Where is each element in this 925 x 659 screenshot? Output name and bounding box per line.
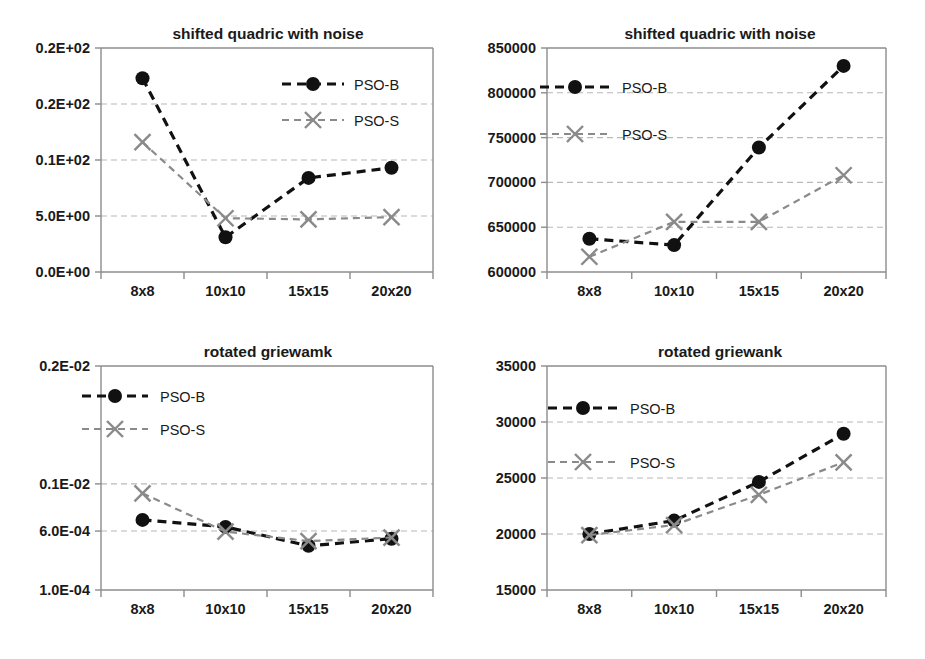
data-point-marker-pso-b bbox=[136, 513, 150, 527]
y-axis-tick-label: 0.1E+02 bbox=[36, 152, 90, 168]
data-point-marker-pso-b bbox=[219, 230, 233, 244]
x-axis-category-label: 15x15 bbox=[739, 601, 779, 617]
x-axis-category-label: 15x15 bbox=[288, 601, 328, 617]
y-axis-tick-label: 0.0E+00 bbox=[36, 264, 90, 280]
chart-title: rotated griewank bbox=[658, 343, 782, 360]
y-axis-tick-label: 800000 bbox=[488, 85, 536, 101]
x-axis-category-label: 8x8 bbox=[577, 601, 601, 617]
legend-label-pso-b: PSO-B bbox=[630, 401, 675, 417]
y-axis-tick-label: 600000 bbox=[488, 264, 536, 280]
y-axis-tick-label: 0.2E+02 bbox=[36, 40, 90, 56]
chart-panel-bottom-left: rotated griewamk0.2E-020.1E-026.0E-041.0… bbox=[0, 330, 462, 659]
chart-title: rotated griewamk bbox=[204, 343, 333, 360]
series-line-pso-s bbox=[589, 175, 843, 257]
legend-marker-pso-b bbox=[108, 389, 122, 403]
legend-label-pso-b: PSO-B bbox=[354, 77, 399, 93]
y-axis-tick-label: 650000 bbox=[488, 219, 536, 235]
series-line-pso-s bbox=[589, 462, 843, 535]
chart-panel-top-left: shifted quadric with noise0.2E+020.2E+02… bbox=[0, 0, 462, 329]
x-axis-category-label: 10x10 bbox=[205, 601, 245, 617]
legend-label-pso-s: PSO-S bbox=[354, 113, 399, 129]
x-axis-category-label: 20x20 bbox=[823, 283, 863, 299]
chart-title: shifted quadric with noise bbox=[172, 25, 364, 42]
y-axis-tick-label: 1.0E-04 bbox=[39, 582, 90, 598]
legend-label-pso-s: PSO-S bbox=[160, 422, 205, 438]
x-axis-category-label: 15x15 bbox=[739, 283, 779, 299]
data-point-marker-pso-b bbox=[837, 59, 851, 73]
figure-canvas: shifted quadric with noise0.2E+020.2E+02… bbox=[0, 0, 925, 659]
x-axis-category-label: 10x10 bbox=[654, 283, 694, 299]
x-axis-category-label: 8x8 bbox=[130, 283, 154, 299]
x-axis-category-label: 10x10 bbox=[654, 601, 694, 617]
series-line-pso-b bbox=[143, 78, 392, 237]
chart-svg-bottom-right: rotated griewank350003000025000200001500… bbox=[462, 330, 924, 659]
series-line-pso-s bbox=[143, 493, 392, 541]
series-line-pso-b bbox=[589, 434, 843, 534]
chart-title: shifted quadric with noise bbox=[624, 25, 816, 42]
data-point-marker-pso-b bbox=[752, 141, 766, 155]
x-axis-category-label: 8x8 bbox=[130, 601, 154, 617]
x-axis-category-label: 10x10 bbox=[205, 283, 245, 299]
legend-label-pso-s: PSO-S bbox=[630, 455, 675, 471]
legend-label-pso-b: PSO-B bbox=[622, 80, 667, 96]
y-axis-tick-label: 0.2E-02 bbox=[39, 358, 90, 374]
x-axis-category-label: 20x20 bbox=[371, 283, 411, 299]
x-axis-category-label: 8x8 bbox=[577, 283, 601, 299]
y-axis-tick-label: 20000 bbox=[496, 526, 536, 542]
legend: PSO-BPSO-S bbox=[548, 401, 675, 471]
chart-svg-bottom-left: rotated griewamk0.2E-020.1E-026.0E-041.0… bbox=[0, 330, 462, 659]
chart-panel-top-right: shifted quadric with noise85000080000075… bbox=[462, 0, 924, 329]
chart-panel-bottom-right: rotated griewank350003000025000200001500… bbox=[462, 330, 924, 659]
x-axis-category-label: 15x15 bbox=[288, 283, 328, 299]
y-axis-tick-label: 35000 bbox=[496, 358, 536, 374]
legend-marker-pso-b bbox=[306, 77, 320, 91]
x-axis-category-label: 20x20 bbox=[823, 601, 863, 617]
data-point-marker-pso-b bbox=[136, 71, 150, 85]
data-point-marker-pso-b bbox=[582, 232, 596, 246]
chart-svg-top-right: shifted quadric with noise85000080000075… bbox=[462, 0, 924, 329]
y-axis-tick-label: 750000 bbox=[488, 130, 536, 146]
legend-label-pso-s: PSO-S bbox=[622, 127, 667, 143]
y-axis-tick-label: 15000 bbox=[496, 582, 536, 598]
y-axis-tick-label: 5.0E+00 bbox=[36, 208, 90, 224]
data-point-marker-pso-b bbox=[385, 161, 399, 175]
legend: PSO-BPSO-S bbox=[282, 77, 399, 129]
y-axis-tick-label: 25000 bbox=[496, 470, 536, 486]
y-axis-tick-label: 0.2E+02 bbox=[36, 96, 90, 112]
data-point-marker-pso-b bbox=[667, 238, 681, 252]
series-line-pso-b bbox=[143, 520, 392, 546]
data-point-marker-pso-b bbox=[752, 475, 766, 489]
y-axis-tick-label: 30000 bbox=[496, 414, 536, 430]
y-axis-tick-label: 0.1E-02 bbox=[39, 476, 90, 492]
x-axis-category-label: 20x20 bbox=[371, 601, 411, 617]
legend-marker-pso-b bbox=[576, 401, 590, 415]
legend-label-pso-b: PSO-B bbox=[160, 389, 205, 405]
legend-marker-pso-b bbox=[568, 80, 582, 94]
y-axis-tick-label: 700000 bbox=[488, 174, 536, 190]
y-axis-tick-label: 6.0E-04 bbox=[39, 523, 90, 539]
legend: PSO-BPSO-S bbox=[540, 80, 667, 143]
chart-svg-top-left: shifted quadric with noise0.2E+020.2E+02… bbox=[0, 0, 462, 329]
data-point-marker-pso-b bbox=[302, 171, 316, 185]
data-point-marker-pso-b bbox=[837, 427, 851, 441]
y-axis-tick-label: 850000 bbox=[488, 40, 536, 56]
